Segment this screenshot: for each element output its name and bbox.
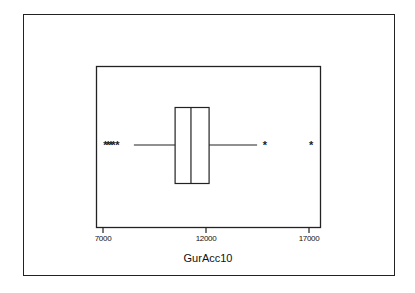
x-tick-label: 17000 xyxy=(299,234,320,243)
box-plot: ******* xyxy=(103,108,314,184)
iqr-box xyxy=(175,108,209,184)
outlier-marker: * xyxy=(263,139,268,151)
outlier-marker: * xyxy=(309,139,314,151)
outlier-marker: * xyxy=(115,139,120,151)
boxplot-svg: ******* xyxy=(0,0,415,293)
x-axis-label: GurAcc10 xyxy=(184,252,233,264)
x-tick-label: 7000 xyxy=(95,234,112,243)
x-tick-label: 12000 xyxy=(196,234,217,243)
